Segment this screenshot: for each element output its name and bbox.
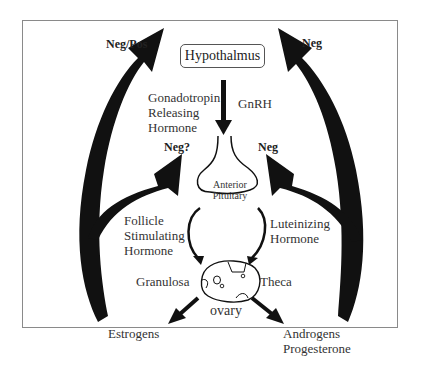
fsh-label: Follicle Stimulating Hormone xyxy=(124,213,185,258)
feedback-label-neg-pos: Neg/Pos xyxy=(106,37,147,52)
anterior-pituitary-label: Anterior Pituitary xyxy=(205,179,255,201)
feedback-label-neg-right-outer: Neg xyxy=(302,36,322,51)
granulosa-label: Granulosa xyxy=(136,274,189,289)
lh-label: Luteinizing Hormone xyxy=(270,216,330,246)
ovary-label: ovary xyxy=(210,303,242,318)
fsh-arrow xyxy=(188,208,204,265)
androgens-output-arrow xyxy=(252,298,284,324)
hypothalamus-node: Hypothalmus xyxy=(180,44,265,68)
androgens-progesterone-label: Androgens Progesterone xyxy=(283,326,351,356)
ovary-shape xyxy=(201,261,259,302)
lh-arrow xyxy=(247,208,265,265)
feedback-label-neg-right-inner: Neg xyxy=(258,140,278,155)
gnrh-full-name: Gonadotropin Releasing Hormone xyxy=(148,90,220,135)
estrogens-output-arrow xyxy=(168,298,198,324)
gnrh-abbreviation: GnRH xyxy=(238,96,272,111)
estrogens-label: Estrogens xyxy=(108,326,159,341)
hypothalamus-label: Hypothalmus xyxy=(185,48,260,64)
theca-label: Theca xyxy=(260,274,292,289)
feedback-label-neg-question: Neg? xyxy=(164,140,190,155)
